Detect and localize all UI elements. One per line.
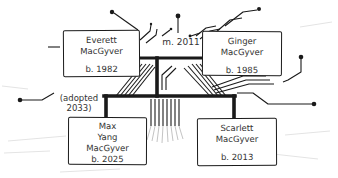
person-name: Ginger xyxy=(228,36,257,47)
person-box-scarlett: Scarlett MacGyver b. 2013 xyxy=(197,118,277,166)
person-box-max: Max Yang MacGyver b. 2025 xyxy=(68,117,147,165)
person-name: MacGyver xyxy=(80,45,123,56)
person-birth: b. 2013 xyxy=(221,152,253,163)
person-box-everett: Everett MacGyver b. 1982 xyxy=(63,30,140,78)
person-birth: b. 1985 xyxy=(226,64,258,75)
person-birth: b. 1982 xyxy=(85,64,118,75)
person-name: MacGyver xyxy=(86,143,129,154)
tree-connector-lines xyxy=(0,0,338,178)
person-name: MacGyver xyxy=(221,46,264,57)
adopted-label-line1: (adopted xyxy=(60,93,98,103)
person-box-ginger: Ginger MacGyver b. 1985 xyxy=(202,31,282,76)
person-name: Scarlett xyxy=(220,123,253,134)
person-name: Max xyxy=(99,121,117,132)
marriage-label: m. 2011 xyxy=(155,37,207,47)
adopted-label-line2: 2033) xyxy=(67,103,92,113)
person-name: MacGyver xyxy=(216,133,259,144)
person-name: Everett xyxy=(86,35,117,46)
family-tree-diagram: Everett MacGyver b. 1982 Ginger MacGyver… xyxy=(0,0,338,178)
person-name: Yang xyxy=(97,132,117,143)
person-birth: b. 2025 xyxy=(91,154,123,165)
adopted-label: (adopted 2033) xyxy=(54,93,104,113)
